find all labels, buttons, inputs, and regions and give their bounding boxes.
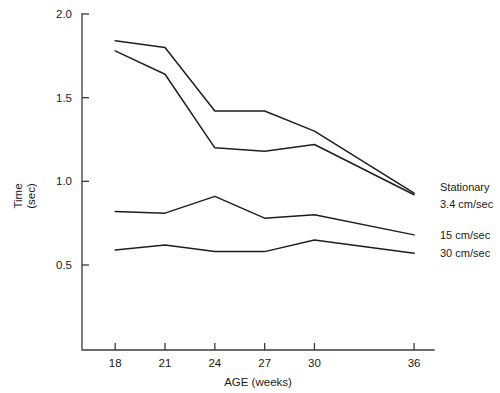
series-labels-group: Stationary3.4 cm/sec15 cm/sec30 cm/sec: [440, 181, 494, 259]
y-tick-label: 0.5: [56, 259, 72, 271]
y-axis-title: Time (sec): [12, 183, 37, 209]
y-axis-tick-labels: 0.51.01.52.0: [56, 8, 72, 271]
x-tick-label: 27: [258, 357, 271, 369]
y-tick-label: 2.0: [56, 8, 72, 20]
series-label-3-4-cm-sec: 3.4 cm/sec: [440, 198, 494, 210]
x-tick-label: 24: [208, 357, 221, 369]
x-tick-label: 18: [109, 357, 122, 369]
series-label-30-cm-sec: 30 cm/sec: [440, 247, 491, 259]
y-axis-tick-marks: [82, 14, 89, 265]
y-tick-label: 1.0: [56, 175, 72, 187]
x-tick-label: 36: [408, 357, 421, 369]
line-chart-figure: 0.51.01.52.0 182124273036 Time (sec) AGE…: [0, 0, 500, 393]
x-axis-title: AGE (weeks): [224, 376, 292, 388]
series-label-stationary: Stationary: [440, 181, 490, 193]
series-label-15-cm-sec: 15 cm/sec: [440, 229, 491, 241]
series-line-stationary: [115, 41, 414, 193]
x-axis-tick-labels: 182124273036: [109, 357, 421, 369]
series-lines-group: [115, 41, 414, 254]
x-tick-label: 30: [308, 357, 321, 369]
chart-canvas: 0.51.01.52.0 182124273036 Time (sec) AGE…: [0, 0, 500, 393]
series-line-15-cm-sec: [115, 196, 414, 234]
y-tick-label: 1.5: [56, 92, 72, 104]
axes-group: [82, 14, 434, 350]
series-line-30-cm-sec: [115, 240, 414, 253]
x-axis-tick-marks: [115, 343, 414, 350]
series-line-3-4-cm-sec: [115, 51, 414, 195]
y-axis-title-line1: Time: [12, 183, 24, 208]
axis-lines: [82, 14, 434, 350]
y-axis-title-line2: (sec): [25, 183, 37, 209]
x-tick-label: 21: [159, 357, 172, 369]
